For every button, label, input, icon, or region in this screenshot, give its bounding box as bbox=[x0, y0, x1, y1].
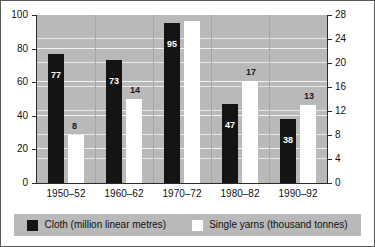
right-axis-tick bbox=[328, 15, 332, 16]
left-axis-tick bbox=[32, 149, 36, 150]
left-axis-tick-label: 60 bbox=[17, 77, 28, 87]
left-axis-tick-label: 0 bbox=[22, 178, 28, 188]
gridline bbox=[37, 62, 327, 63]
category-separator bbox=[153, 15, 154, 183]
left-axis-tick bbox=[32, 15, 36, 16]
right-axis-tick-label: 24 bbox=[335, 34, 346, 44]
white-square-icon bbox=[192, 220, 203, 231]
bar-cloth bbox=[222, 104, 238, 183]
bar-yarn bbox=[126, 99, 142, 183]
plot-area: 7787314952747173813 bbox=[37, 15, 327, 183]
right-axis-tick-label: 8 bbox=[335, 130, 341, 140]
right-axis-tick bbox=[328, 183, 332, 184]
left-axis-line bbox=[36, 15, 37, 184]
gridline bbox=[37, 86, 327, 87]
bar-yarn bbox=[242, 81, 258, 183]
bar-chart-figure: 7787314952747173813 020406080100 0481216… bbox=[0, 0, 375, 247]
gridline bbox=[37, 110, 327, 111]
category-label: 1970–72 bbox=[153, 189, 211, 199]
bar-cloth bbox=[280, 119, 296, 183]
bar-value-label-yarn: 27 bbox=[188, 15, 198, 17]
legend-label-yarn: Single yarns (thousand tonnes) bbox=[209, 220, 347, 230]
left-axis-tick bbox=[32, 49, 36, 50]
left-axis-tick-label: 100 bbox=[11, 10, 28, 20]
bar-value-label-yarn: 13 bbox=[304, 92, 314, 101]
left-axis-tick-label: 20 bbox=[17, 144, 28, 154]
left-axis-tick bbox=[32, 82, 36, 83]
right-axis-tick bbox=[328, 39, 332, 40]
category-label: 1980–82 bbox=[211, 189, 269, 199]
right-axis-tick-label: 12 bbox=[335, 106, 346, 116]
right-axis-tick-label: 20 bbox=[335, 58, 346, 68]
left-axis-tick bbox=[32, 183, 36, 184]
bar-value-label-cloth: 73 bbox=[109, 77, 119, 86]
right-axis-tick bbox=[328, 111, 332, 112]
legend-label-cloth: Cloth (million linear metres) bbox=[44, 220, 166, 230]
bar-value-label-cloth: 77 bbox=[51, 71, 61, 80]
left-axis-tick-label: 80 bbox=[17, 44, 28, 54]
right-axis-tick-label: 4 bbox=[335, 154, 341, 164]
category-label: 1990–92 bbox=[269, 189, 327, 199]
right-axis-tick-label: 0 bbox=[335, 178, 341, 188]
bar-yarn bbox=[300, 105, 316, 183]
category-label: 1960–62 bbox=[95, 189, 153, 199]
bar-yarn bbox=[184, 21, 200, 183]
legend-entry-cloth: Cloth (million linear metres) bbox=[27, 220, 166, 231]
right-axis-tick bbox=[328, 159, 332, 160]
right-axis-tick bbox=[328, 63, 332, 64]
category-separator bbox=[269, 15, 270, 183]
right-axis-tick-label: 28 bbox=[335, 10, 346, 20]
gridline bbox=[37, 48, 327, 49]
chart-legend: Cloth (million linear metres) Single yar… bbox=[14, 214, 361, 236]
left-axis-tick bbox=[32, 116, 36, 117]
category-label: 1950–52 bbox=[37, 189, 95, 199]
category-separator bbox=[211, 15, 212, 183]
bar-value-label-cloth: 38 bbox=[283, 136, 293, 145]
right-axis-tick bbox=[328, 87, 332, 88]
black-square-icon bbox=[27, 220, 38, 231]
category-separator bbox=[95, 15, 96, 183]
legend-entry-yarn: Single yarns (thousand tonnes) bbox=[192, 220, 347, 231]
bar-value-label-yarn: 14 bbox=[130, 86, 140, 95]
bar-value-label-cloth: 47 bbox=[225, 121, 235, 130]
bar-value-label-yarn: 8 bbox=[72, 122, 77, 131]
right-axis-tick bbox=[328, 135, 332, 136]
left-axis-tick-label: 40 bbox=[17, 111, 28, 121]
bar-yarn bbox=[68, 135, 84, 183]
bar-value-label-cloth: 95 bbox=[167, 40, 177, 49]
gridline bbox=[37, 38, 327, 39]
right-axis-tick-label: 16 bbox=[335, 82, 346, 92]
bar-value-label-yarn: 17 bbox=[246, 68, 256, 77]
gridline bbox=[37, 115, 327, 116]
bottom-axis-line bbox=[36, 183, 328, 184]
gridline bbox=[37, 81, 327, 82]
